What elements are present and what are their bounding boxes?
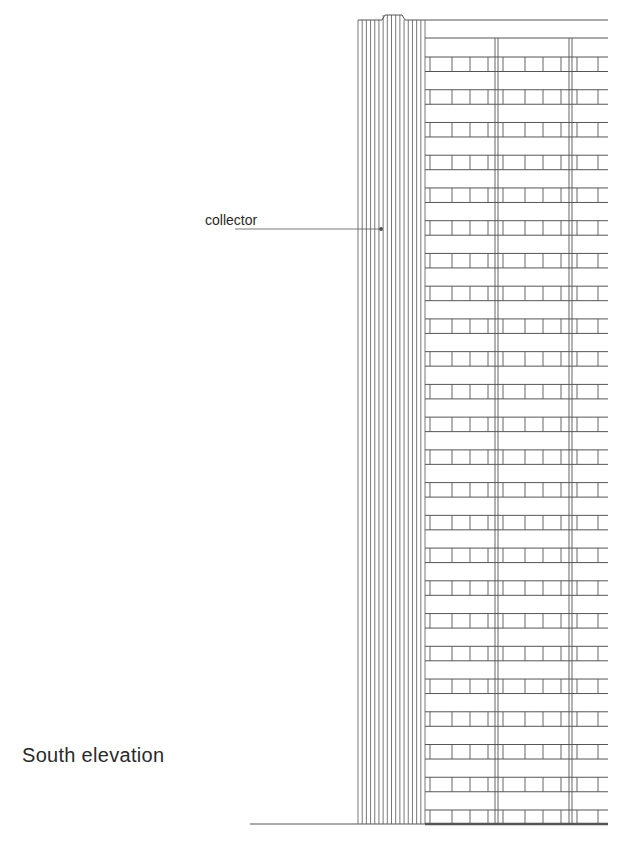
drawing-title: South elevation [22, 744, 164, 767]
collector-label: collector [205, 212, 257, 228]
south-elevation-drawing [0, 0, 639, 856]
collector-leader-dot [379, 227, 383, 231]
